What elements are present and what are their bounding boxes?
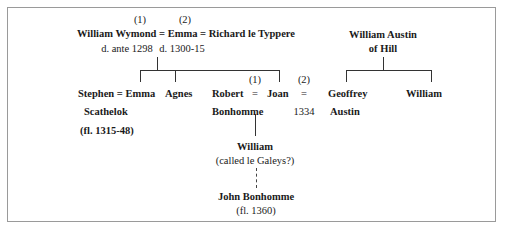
- austin-sibling-bar: [346, 70, 432, 71]
- descent-line-william: [255, 114, 256, 136]
- uncertain-descent-line: [256, 168, 257, 188]
- stub-joan: [279, 70, 280, 82]
- william-austin-name: William Austin: [349, 29, 417, 41]
- william-note: (called le Galeys?): [216, 155, 295, 167]
- william-austin-son: William: [406, 88, 442, 100]
- joan: Joan: [267, 88, 289, 100]
- geoffrey-austin-surname: Austin: [330, 106, 360, 118]
- equals-robert-joan: =: [252, 88, 258, 100]
- year-1334: 1334: [294, 106, 315, 118]
- stephen-dates: (fl. 1315-48): [80, 125, 134, 137]
- john-bonhomme: John Bonhomme: [218, 191, 294, 203]
- equals-joan-second: =: [301, 88, 307, 100]
- wymond-couple: William Wymond = Emma = Richard le Typpe…: [77, 28, 295, 40]
- geoffrey: Geoffrey: [328, 88, 367, 100]
- joan-mark-1: (1): [249, 74, 261, 86]
- robert: Robert: [212, 88, 244, 100]
- joan-mark-2: (2): [298, 74, 310, 86]
- stub-geoffrey: [346, 70, 347, 82]
- agnes: Agnes: [165, 88, 192, 100]
- sibling-bar: [140, 70, 280, 71]
- stub-agnes: [175, 70, 176, 82]
- emma-death: d. 1300-15: [159, 43, 205, 55]
- stephen-emma: Stephen = Emma: [78, 88, 155, 100]
- marriage-mark-2: (2): [179, 14, 191, 26]
- william-austin-place: of Hill: [369, 43, 397, 55]
- john-dates: (fl. 1360): [236, 205, 276, 217]
- scathelok: Scathelok: [84, 106, 128, 118]
- austin-descent-line: [383, 57, 384, 70]
- marriage-mark-1: (1): [134, 14, 146, 26]
- stub-william-austin: [431, 70, 432, 82]
- wymond-death: d. ante 1298: [101, 43, 153, 55]
- stub-emma: [140, 70, 141, 82]
- descent-line: [157, 57, 158, 70]
- william-son: William: [237, 141, 273, 153]
